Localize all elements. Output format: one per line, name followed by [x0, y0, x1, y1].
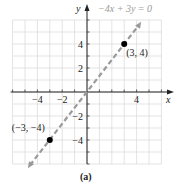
figure-caption: (a) — [80, 171, 92, 183]
y-tick-label: 2 — [78, 63, 83, 74]
y-tick-label: 4 — [78, 39, 83, 50]
y-axis-label: y — [75, 3, 81, 14]
graph: −4−2442−2−4 (3, 4)(−3, −4) x y −4x + 3y … — [0, 0, 181, 185]
point-label: (3, 4) — [126, 47, 148, 59]
point-label: (−3, −4) — [12, 122, 45, 134]
x-tick-label: 4 — [134, 94, 139, 105]
equation-label: −4x + 3y = 0 — [98, 3, 152, 14]
line-arrow-up-icon — [135, 22, 141, 29]
y-tick-label: −2 — [72, 111, 83, 122]
x-axis-label: x — [165, 94, 171, 105]
data-point — [47, 137, 53, 143]
y-axis-arrow-icon — [85, 4, 90, 11]
x-tick-label: −2 — [57, 94, 68, 105]
x-tick-label: −4 — [32, 94, 43, 105]
y-tick-label: −4 — [72, 135, 83, 146]
